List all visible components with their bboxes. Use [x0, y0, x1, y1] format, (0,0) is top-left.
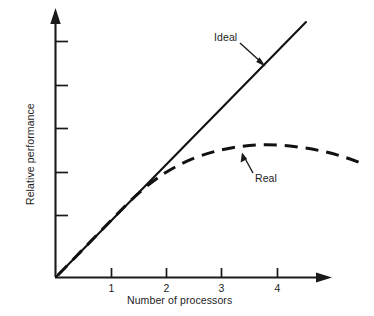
series-line-real — [58, 145, 366, 275]
chart-plot-area — [0, 0, 374, 316]
x-tick-label-4: 4 — [266, 282, 290, 294]
x-tick-label-3: 3 — [210, 282, 234, 294]
x-tick-label-1: 1 — [100, 282, 124, 294]
series-label-real: Real — [255, 172, 277, 184]
series-label-ideal: Ideal — [214, 31, 237, 43]
y-axis-arrowhead — [50, 8, 60, 24]
x-axis-arrowhead — [316, 272, 332, 282]
x-axis-title: Number of processors — [127, 294, 232, 306]
chart-figure: 1 2 3 4 Number of processors Relative pe… — [0, 0, 374, 316]
y-axis-title: Relative performance — [24, 103, 36, 205]
x-tick-label-2: 2 — [155, 282, 179, 294]
real-annotation-leader — [245, 158, 254, 174]
